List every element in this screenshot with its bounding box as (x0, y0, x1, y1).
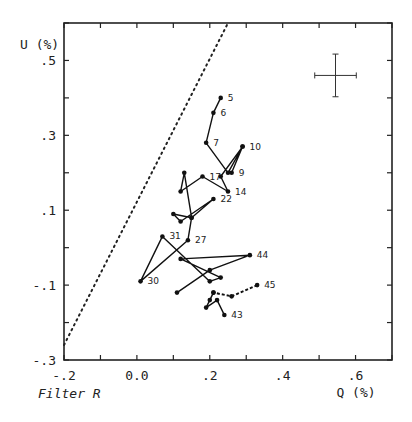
data-point (229, 294, 234, 299)
data-point (178, 189, 183, 194)
series-line (141, 98, 250, 293)
y-tick-label: .5 (40, 53, 56, 68)
data-point (182, 170, 187, 175)
data-point (160, 234, 165, 239)
data-point (189, 215, 194, 220)
data-point (138, 279, 143, 284)
point-label: 44 (257, 250, 269, 260)
dotted-line (64, 23, 228, 345)
point-label: 10 (250, 142, 262, 152)
data-point (248, 253, 253, 258)
data-point (204, 141, 209, 146)
point-label: 27 (195, 235, 206, 245)
data-point (186, 238, 191, 243)
data-point (218, 275, 223, 280)
data-point (229, 170, 234, 175)
y-tick-label: .1 (40, 203, 56, 218)
x-axis-title: Q (%) (336, 385, 375, 400)
point-label: 43 (231, 310, 242, 320)
x-tick-label: 0.0 (125, 368, 148, 383)
data-point (211, 111, 216, 116)
data-point (218, 96, 223, 101)
y-tick-label: -.3 (33, 353, 56, 368)
reference-dotted-line (64, 23, 228, 345)
point-label: 6 (220, 108, 226, 118)
x-tick-label: .4 (275, 368, 291, 383)
point-label: 45 (264, 280, 275, 290)
data-series: 567109141722273031444543 (138, 93, 275, 320)
data-point (222, 313, 227, 318)
point-label: 5 (228, 93, 234, 103)
y-axis-title: U (%) (20, 37, 59, 52)
y-tick-label: -.1 (33, 278, 56, 293)
data-point (171, 212, 176, 217)
point-label: 17 (209, 172, 220, 182)
figure-caption: Filter R (38, 386, 101, 401)
data-point (211, 290, 216, 295)
point-label: 22 (220, 194, 231, 204)
x-tick-label: .6 (348, 368, 364, 383)
data-point (178, 257, 183, 262)
data-point (207, 298, 212, 303)
data-point (204, 305, 209, 310)
series-line (206, 293, 224, 316)
data-point (207, 279, 212, 284)
data-point (207, 268, 212, 273)
data-point (211, 197, 216, 202)
point-label: 30 (148, 276, 160, 286)
error-bar-cross (315, 54, 357, 97)
point-label: 14 (235, 187, 247, 197)
series-line (213, 285, 257, 296)
x-tick-label: .2 (202, 368, 218, 383)
chart-canvas: 567109141722273031444543 -.20.0.2.4.6.5.… (0, 0, 412, 422)
y-tick-label: .3 (40, 128, 56, 143)
data-point (200, 174, 205, 179)
data-point (175, 290, 180, 295)
data-point (178, 219, 183, 224)
data-point (215, 298, 220, 303)
point-label: 9 (239, 168, 245, 178)
x-tick-label: -.2 (52, 368, 75, 383)
data-point (255, 283, 260, 288)
data-point (240, 144, 245, 149)
point-label: 7 (213, 138, 219, 148)
axis-labels: -.20.0.2.4.6.5.3.1-.1-.3U (%)Q (%)Filter… (20, 37, 376, 401)
point-label: 31 (169, 231, 180, 241)
